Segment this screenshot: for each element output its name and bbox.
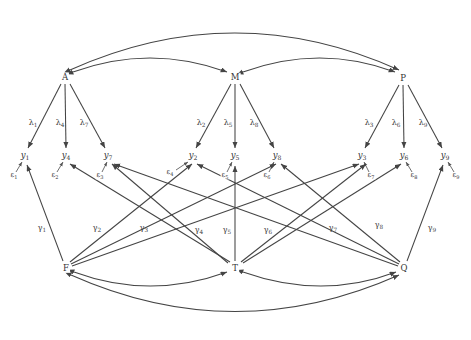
loading-path-A-y7 bbox=[70, 84, 105, 148]
regression-path-T-y7 bbox=[112, 164, 228, 263]
loading-label-lambda3: λ3 bbox=[365, 119, 374, 128]
error-node-e5: ε5 bbox=[221, 172, 230, 179]
error-path-e5-y5 bbox=[227, 162, 232, 172]
covariance-arc-A-P bbox=[70, 33, 399, 70]
loading-label-lambda1: λ1 bbox=[29, 119, 38, 128]
regression-label-gamma2: γ2 bbox=[93, 224, 101, 233]
regression-label-gamma7: γ7 bbox=[329, 224, 337, 233]
indicator-node-y4: y4 bbox=[61, 151, 72, 161]
predictor-node-F: F bbox=[62, 264, 70, 273]
loading-path-P-y6 bbox=[403, 85, 404, 148]
error-node-e8: ε8 bbox=[410, 172, 419, 179]
latent-node-A: A bbox=[61, 73, 69, 82]
indicator-node-y8: y8 bbox=[272, 151, 283, 161]
error-node-e4: ε4 bbox=[166, 169, 175, 176]
error-path-e3-y7 bbox=[102, 162, 107, 172]
error-path-e2-y4 bbox=[57, 162, 63, 172]
regression-label-gamma4: γ4 bbox=[195, 226, 203, 235]
loading-label-lambda2: λ2 bbox=[197, 119, 206, 128]
path-edges-layer bbox=[0, 0, 471, 340]
loading-label-lambda8: λ8 bbox=[250, 119, 259, 128]
covariance-arc-A-M bbox=[73, 58, 227, 72]
regression-label-gamma5: γ5 bbox=[223, 226, 231, 235]
loading-path-P-y3 bbox=[365, 85, 399, 148]
covariance-arc-T-Q bbox=[243, 272, 396, 286]
regression-label-gamma8: γ8 bbox=[375, 221, 383, 230]
path-diagram: A M P F T Q y1 y4 y7 y2 y5 y8 y3 y6 y9 ε… bbox=[0, 0, 471, 340]
loading-path-M-y8 bbox=[240, 84, 274, 148]
loading-label-lambda6: λ6 bbox=[392, 119, 401, 128]
latent-node-M: M bbox=[230, 73, 241, 82]
indicator-node-y3: y3 bbox=[357, 151, 368, 161]
error-node-e2: ε2 bbox=[51, 172, 60, 179]
error-node-e6: ε6 bbox=[263, 172, 272, 179]
regression-path-F-y2 bbox=[70, 164, 192, 262]
loading-path-M-y2 bbox=[196, 84, 231, 148]
predictor-node-T: T bbox=[231, 264, 239, 273]
loading-path-P-y9 bbox=[408, 85, 442, 148]
covariance-arc-M-P bbox=[243, 58, 395, 72]
loading-label-lambda9: λ9 bbox=[419, 119, 428, 128]
regression-label-gamma9: γ9 bbox=[428, 224, 436, 233]
loading-label-lambda4: λ4 bbox=[56, 119, 65, 128]
error-path-e1-y1 bbox=[16, 162, 22, 172]
regression-label-gamma1: γ1 bbox=[38, 224, 46, 233]
regression-path-F-y3 bbox=[72, 164, 359, 266]
error-node-e3: ε3 bbox=[96, 172, 105, 179]
indicator-node-y9: y9 bbox=[440, 151, 451, 161]
error-node-e1: ε1 bbox=[10, 172, 19, 179]
error-node-e9: ε9 bbox=[452, 172, 461, 179]
regression-label-gamma3: γ3 bbox=[140, 224, 148, 233]
indicator-node-y1: y1 bbox=[20, 151, 31, 161]
loading-path-A-y1 bbox=[28, 84, 61, 148]
regression-path-T-y4 bbox=[70, 164, 230, 262]
indicator-node-y7: y7 bbox=[103, 151, 114, 161]
loading-path-A-y4 bbox=[65, 84, 66, 148]
indicator-node-y6: y6 bbox=[399, 151, 410, 161]
error-node-e7: ε7 bbox=[367, 172, 376, 179]
loading-label-lambda7: λ7 bbox=[80, 119, 89, 128]
covariance-arc-F-Q bbox=[71, 275, 399, 312]
regression-path-Q-y8 bbox=[281, 164, 400, 262]
indicator-node-y2: y2 bbox=[188, 151, 199, 161]
indicator-node-y5: y5 bbox=[230, 151, 241, 161]
covariance-arc-F-T bbox=[74, 272, 227, 286]
predictor-node-Q: Q bbox=[400, 264, 409, 273]
loading-label-lambda5: λ5 bbox=[224, 119, 233, 128]
latent-node-P: P bbox=[399, 74, 407, 83]
regression-label-gamma6: γ6 bbox=[264, 226, 272, 235]
